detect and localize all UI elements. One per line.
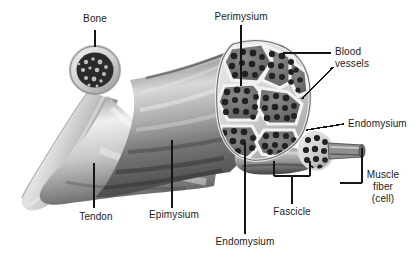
label-muscle-fiber-line2: fiber	[373, 181, 393, 193]
label-fascicle: Fascicle	[273, 206, 310, 218]
single-muscle-fiber	[328, 143, 365, 159]
fascicle-bundle	[216, 44, 308, 158]
label-endomysium-right: Endomysium	[348, 118, 407, 130]
label-tendon: Tendon	[79, 211, 112, 223]
label-bone: Bone	[83, 13, 107, 25]
leader-endomysium-right	[306, 124, 344, 130]
label-blood-vessels-line1: Blood	[335, 46, 361, 58]
anatomy-illustration	[0, 0, 418, 262]
label-blood-vessels-line2: vessels	[335, 58, 369, 70]
figure-canvas: Bone Perimysium Blood vessels Endomysium…	[0, 0, 418, 262]
label-perimysium: Perimysium	[214, 11, 267, 23]
bone-marrow-cross-section	[70, 46, 120, 94]
label-muscle-fiber-line3: (cell)	[372, 193, 394, 205]
label-endomysium-bottom: Endomysium	[216, 236, 275, 248]
label-epimysium: Epimysium	[149, 209, 199, 221]
label-muscle-fiber-line1: Muscle	[367, 169, 399, 181]
muscle-cross-section	[216, 41, 310, 161]
